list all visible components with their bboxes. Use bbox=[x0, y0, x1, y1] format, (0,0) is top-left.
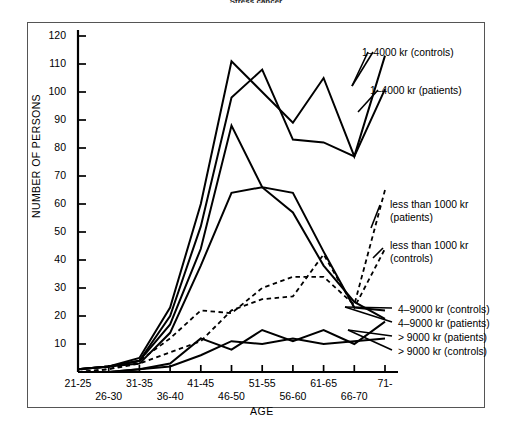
x-tick-label: 46-50 bbox=[204, 390, 260, 402]
legend-leader-line bbox=[373, 248, 383, 258]
legend-label-4-9000-patients: 4–9000 kr (patients) bbox=[398, 318, 490, 331]
y-tick-label: 120 bbox=[34, 29, 66, 41]
y-tick-label: 70 bbox=[34, 169, 66, 181]
legend-label-gt9000-controls: > 9000 kr (controls) bbox=[398, 346, 487, 359]
y-tick-label: 20 bbox=[34, 309, 66, 321]
legend-label-1-4000-patients: 1–4000 kr (patients) bbox=[370, 85, 462, 98]
legend-leader-line bbox=[345, 307, 392, 308]
series-line bbox=[78, 249, 385, 372]
x-tick-label: 31-35 bbox=[111, 377, 167, 389]
x-tick-label: 56-60 bbox=[265, 390, 321, 402]
y-tick-label: 60 bbox=[34, 197, 66, 209]
x-axis-title: AGE bbox=[202, 405, 322, 417]
y-tick-label: 100 bbox=[34, 85, 66, 97]
y-tick-label: 110 bbox=[34, 57, 66, 69]
axes bbox=[78, 30, 398, 372]
x-tick-label: 26-30 bbox=[81, 390, 137, 402]
series-line bbox=[78, 56, 385, 370]
x-tick-label: 41-45 bbox=[173, 377, 229, 389]
y-tick-label: 90 bbox=[34, 113, 66, 125]
legend-label-lt1000-controls: less than 1000 kr bbox=[390, 240, 468, 253]
legend-label-4-9000-controls: 4–9000 kr (controls) bbox=[398, 304, 490, 317]
x-tick-label: 71- bbox=[357, 377, 413, 389]
y-axis-ticks bbox=[78, 36, 86, 344]
y-tick-label: 30 bbox=[34, 281, 66, 293]
x-tick-label: 66-70 bbox=[326, 390, 382, 402]
y-tick-label: 80 bbox=[34, 141, 66, 153]
legend-label-lt1000-patients-line2: (patients) bbox=[390, 212, 433, 225]
legend-label-lt1000-controls-line2: (controls) bbox=[390, 253, 433, 266]
y-tick-label: 50 bbox=[34, 225, 66, 237]
y-axis-title: NUMBER OF PERSONS bbox=[30, 76, 42, 236]
y-tick-label: 10 bbox=[34, 337, 66, 349]
y-tick-label: 40 bbox=[34, 253, 66, 265]
x-tick-label: 51-55 bbox=[234, 377, 290, 389]
legend-label-lt1000-patients: less than 1000 kr bbox=[390, 199, 468, 212]
legend-label-gt9000-patients: > 9000 kr (patients) bbox=[398, 332, 487, 345]
x-tick-label: 36-40 bbox=[142, 390, 198, 402]
x-tick-label: 21-25 bbox=[50, 377, 106, 389]
chart-figure: Stress cancer NUMBER OF PERSONS AGE 1020… bbox=[0, 0, 512, 430]
chart-plot-area bbox=[0, 0, 512, 430]
data-series-group bbox=[78, 56, 385, 372]
x-tick-label: 61-65 bbox=[296, 377, 352, 389]
series-line bbox=[78, 126, 385, 370]
legend-label-1-4000-controls: 1–4000 kr (controls) bbox=[362, 47, 454, 60]
